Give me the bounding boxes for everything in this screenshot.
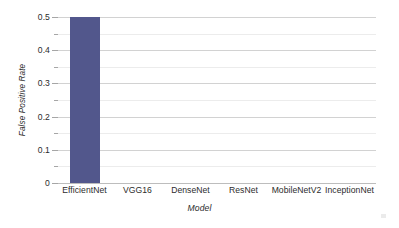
x-tick-label-vgg16: VGG16 [111, 185, 164, 195]
x-tick-label-densenet: DenseNet [164, 185, 217, 195]
x-tick-label-efficientnet: EfficientNet [58, 185, 111, 195]
y-tick-label: 0.3 [38, 78, 50, 88]
bar-slot [111, 17, 164, 183]
plot-area [58, 17, 376, 183]
bar-slot [58, 17, 111, 183]
x-tick-label-inceptionnet: InceptionNet [323, 185, 376, 195]
bar-chart-figure: False Positive Rate 00.10.20.30.40.5 Eff… [0, 0, 399, 228]
bar-slot [164, 17, 217, 183]
y-tick-label: 0.2 [38, 112, 50, 122]
y-tick-label: 0.5 [38, 12, 50, 22]
y-tick-label: 0.1 [38, 145, 50, 155]
bar-slot [323, 17, 376, 183]
y-tick-label: 0.4 [38, 45, 50, 55]
y-tick-label: 0 [45, 178, 50, 188]
bar-efficientnet[interactable] [70, 17, 100, 183]
bar-slot [270, 17, 323, 183]
x-axis-tick-labels: EfficientNetVGG16DenseNetResNetMobileNet… [58, 185, 376, 195]
x-axis-line [58, 183, 376, 184]
x-tick-label-resnet: ResNet [217, 185, 270, 195]
bar-series [58, 17, 376, 183]
x-axis-title: Model [0, 203, 399, 213]
scan-artifact [381, 214, 386, 218]
bar-slot [217, 17, 270, 183]
x-tick-label-mobilenetv2: MobileNetV2 [270, 185, 323, 195]
